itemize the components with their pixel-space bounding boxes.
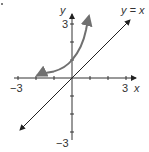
graph: y 3 −3 −3 3 x y = x — [0, 0, 149, 152]
dot-marker — [1, 3, 3, 5]
x-axis-label: x — [133, 82, 140, 94]
line-y-equals-x — [72, 20, 130, 78]
x-axis — [14, 76, 136, 80]
line-y-equals-x-lower — [20, 78, 72, 130]
y-min-label: −3 — [56, 137, 69, 149]
x-max-label: 3 — [122, 82, 128, 94]
line-label: y = x — [120, 4, 145, 16]
y-axis-label: y — [59, 4, 67, 16]
exponential-curve — [37, 71, 54, 75]
y-max-label: 3 — [62, 18, 68, 30]
x-min-label: −3 — [10, 82, 23, 94]
